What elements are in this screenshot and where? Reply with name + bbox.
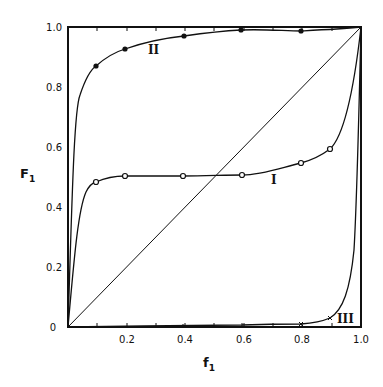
- x-axis-label: f1: [203, 355, 215, 373]
- x-tick-1.0: 1.0: [353, 334, 369, 345]
- copolymer-composition-chart: 0 0.2 0.4 0.6 0.8 1.0 0.2 0.4 0.6 0.8 1.…: [0, 0, 383, 387]
- x-tick-0.6: 0.6: [236, 334, 252, 345]
- y-tick-0.4: 0.4: [46, 202, 62, 213]
- curve-label-I: I: [271, 173, 277, 187]
- y-tick-1.0: 1.0: [46, 22, 62, 33]
- x-tick-0.8: 0.8: [294, 334, 310, 345]
- x-tick-0.4: 0.4: [177, 334, 193, 345]
- y-tick-0.2: 0.2: [46, 262, 62, 273]
- y-tick-0.8: 0.8: [46, 82, 62, 93]
- x-tick-0.2: 0.2: [119, 334, 135, 345]
- curve-label-II: II: [148, 43, 160, 57]
- y-tick-0: 0: [50, 322, 56, 333]
- y-tick-0.6: 0.6: [46, 142, 62, 153]
- curve-label-III: III: [337, 312, 354, 326]
- y-axis-label: F1: [20, 166, 35, 184]
